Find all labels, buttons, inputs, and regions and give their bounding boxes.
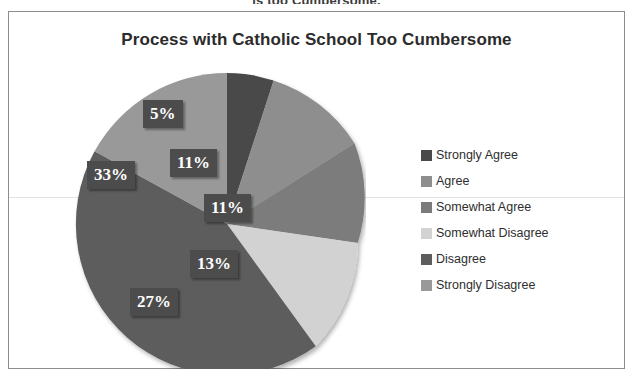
chart-title: Process with Catholic School Too Cumbers… (9, 30, 624, 50)
legend-item-strongly-agree[interactable]: Strongly Agree (421, 142, 616, 168)
legend-item-strongly-disagree[interactable]: Strongly Disagree (421, 272, 616, 298)
pie-label-strongly-agree: 5% (143, 100, 183, 128)
page-caption: is too Cumbersome. (0, 0, 633, 4)
legend-item-label: Strongly Agree (436, 148, 518, 162)
legend-swatch-icon (421, 176, 432, 187)
legend-swatch-icon (421, 254, 432, 265)
legend-item-disagree[interactable]: Disagree (421, 246, 616, 272)
legend-item-label: Somewhat Disagree (436, 226, 549, 240)
chart-frame: Process with Catholic School Too Cumbers… (8, 11, 625, 369)
legend-swatch-icon (421, 280, 432, 291)
legend-swatch-icon (421, 150, 432, 161)
legend-item-agree[interactable]: Agree (421, 168, 616, 194)
pie-label-somewhat-disagree: 13% (190, 250, 238, 278)
pie-label-disagree: 27% (130, 288, 178, 316)
pie-label-strongly-disagree: 33% (87, 161, 135, 189)
legend-item-somewhat-disagree[interactable]: Somewhat Disagree (421, 220, 616, 246)
legend-item-somewhat-agree[interactable]: Somewhat Agree (421, 194, 616, 220)
pie-chart: 5% 11% 11% 13% 27% 33% (66, 57, 366, 369)
legend-item-label: Agree (436, 174, 469, 188)
legend-swatch-icon (421, 228, 432, 239)
chart-legend: Strongly Agree Agree Somewhat Agree Some… (421, 142, 616, 298)
pie-label-somewhat-agree: 11% (204, 194, 251, 222)
legend-item-label: Somewhat Agree (436, 200, 531, 214)
legend-item-label: Strongly Disagree (436, 278, 535, 292)
legend-item-label: Disagree (436, 252, 486, 266)
pie-label-agree: 11% (170, 149, 217, 177)
legend-swatch-icon (421, 202, 432, 213)
